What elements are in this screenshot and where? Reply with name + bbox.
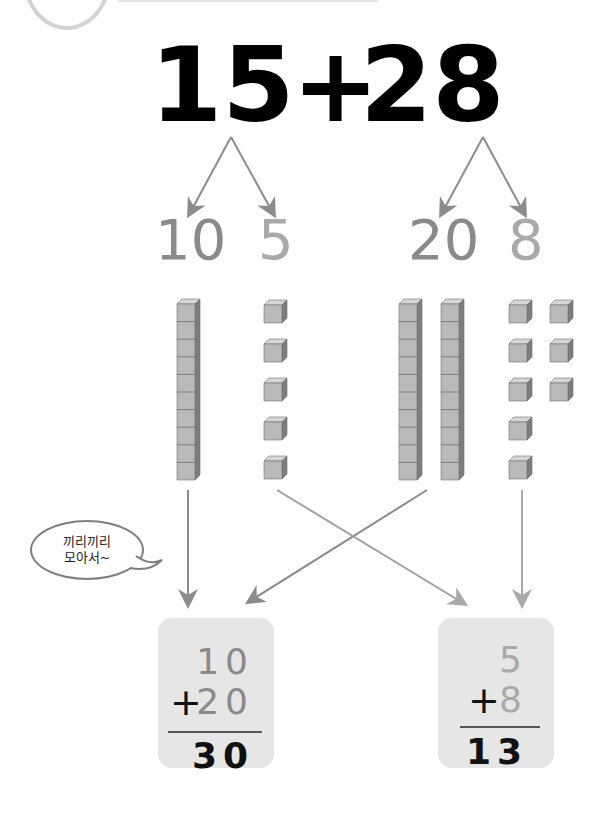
- split-arrows-15: [190, 137, 273, 213]
- tens-top: 10: [196, 642, 254, 682]
- unit-cube: [550, 339, 573, 362]
- tens-second: 20: [196, 682, 254, 722]
- unit-cube: [509, 378, 532, 401]
- tens-sum-card: 10 + 20 30: [158, 618, 274, 768]
- bubble-line-2: 모아서~: [64, 550, 111, 566]
- ten-rods: [177, 299, 464, 480]
- bubble-line-1: 끼리끼리: [63, 534, 111, 550]
- unit-cube: [264, 378, 287, 401]
- unit-cube: [509, 300, 532, 323]
- unit-cube: [264, 300, 287, 323]
- unit-cube: [550, 300, 573, 323]
- ones-sum-card: 5 + 8 13: [438, 618, 554, 768]
- unit-cube: [509, 339, 532, 362]
- ones-top: 5: [499, 640, 528, 680]
- unit-cube: [509, 417, 532, 440]
- speech-bubble: 끼리끼리 모아서~: [30, 520, 144, 580]
- split-arrows-28: [442, 137, 524, 213]
- ten-rod: [399, 299, 422, 480]
- tens-result: 30: [192, 736, 254, 776]
- ones-result: 13: [466, 732, 528, 772]
- unit-cube: [264, 456, 287, 479]
- combine-arrows: [188, 490, 522, 603]
- ones-plus: +: [468, 680, 500, 720]
- ten-rod: [177, 299, 200, 480]
- unit-cube: [509, 456, 532, 479]
- unit-cube: [550, 378, 573, 401]
- ones-rule: [460, 726, 540, 728]
- unit-cube: [264, 339, 287, 362]
- ones-second: 8: [499, 680, 528, 720]
- ten-rod: [441, 299, 464, 480]
- tens-rule: [168, 731, 262, 733]
- unit-cube: [264, 417, 287, 440]
